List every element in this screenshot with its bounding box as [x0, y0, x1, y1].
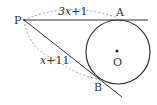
label-p: P — [14, 14, 22, 27]
tangent-diagram: P A B O 3x+1 x+11 — [0, 0, 157, 105]
label-a: A — [115, 6, 125, 19]
tangent-line-pb — [24, 20, 122, 97]
label-o: O — [113, 56, 122, 69]
point-p-dot — [23, 19, 25, 21]
label-length-pb: x+11 — [40, 54, 69, 67]
center-dot — [116, 50, 119, 53]
label-b: B — [94, 81, 102, 94]
label-length-pa: 3x+1 — [58, 5, 87, 18]
